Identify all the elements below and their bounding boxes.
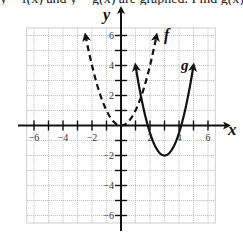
axes (18, 8, 229, 231)
coordinate-plane: −6−4−2246642−2−4−6 x y f g (0, 0, 243, 241)
g-curve-label: g (180, 57, 189, 73)
f-curve-label: f (164, 26, 171, 44)
y-tick-label: −4 (103, 180, 114, 191)
y-tick-label: 2 (109, 90, 114, 101)
y-tick-label: 4 (109, 60, 114, 71)
y-tick-label: −6 (103, 210, 114, 221)
y-tick-label: −2 (103, 150, 114, 161)
x-tick-label: −4 (58, 132, 69, 143)
x-tick-label: −2 (87, 132, 98, 143)
graph-figure: y = f(x) and y = g(x) are graphed. Find … (0, 0, 243, 241)
y-axis-label: y (101, 6, 111, 24)
x-tick-label: −6 (29, 132, 40, 143)
y-tick-label: 6 (109, 30, 114, 41)
x-axis-label: x (227, 120, 237, 139)
cut-off-caption: y = f(x) and y = g(x) are graphed. Find … (0, 0, 243, 5)
x-tick-label: 6 (206, 132, 211, 143)
